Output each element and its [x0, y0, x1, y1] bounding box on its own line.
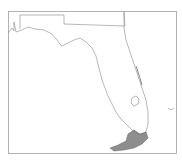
florida-outline [8, 12, 148, 134]
map-frame [9, 12, 177, 154]
island-outline [168, 108, 174, 110]
lake-okeechobee [131, 96, 139, 106]
state-border-line [20, 12, 125, 29]
lagoon-line [136, 66, 142, 85]
florida-range-map [0, 0, 182, 161]
map-container [0, 0, 182, 161]
species-range-area [110, 130, 148, 151]
